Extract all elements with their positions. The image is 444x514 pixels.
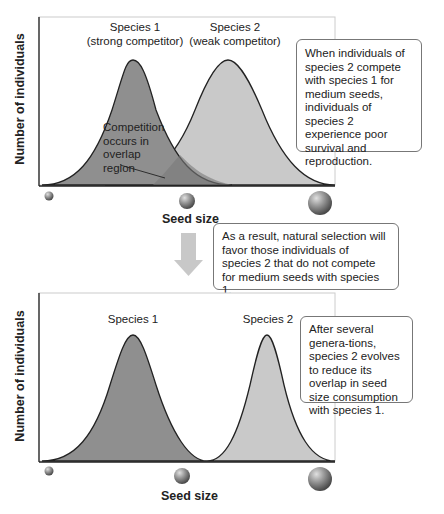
overlap-note-line: occurs in <box>103 135 164 149</box>
large-seed-icon <box>308 467 332 491</box>
y-axis-label: Number of individuals <box>13 29 27 169</box>
overlap-note-line: region <box>103 162 164 176</box>
callout-competition: When individuals of species 2 compete wi… <box>296 39 422 152</box>
medium-seed-icon <box>179 193 195 209</box>
small-seed-icon <box>45 192 54 201</box>
species2-subtitle: (weak competitor) <box>185 34 285 48</box>
large-seed-icon <box>308 191 332 215</box>
x-axis-label: Seed size <box>162 212 219 226</box>
bottom-panel: Number of individuals Seed size Species … <box>0 285 444 514</box>
species1-subtitle: (strong competitor) <box>80 34 190 48</box>
small-seed-icon <box>45 467 54 476</box>
callout-evolution: After several genera-tions, species 2 ev… <box>300 316 413 403</box>
overlap-note-line: overlap <box>103 148 164 162</box>
species1-label: Species 1 (strong competitor) <box>80 20 190 48</box>
species1-title: Species 1 <box>80 20 190 34</box>
medium-seed-icon <box>174 468 190 484</box>
y-axis-label: Number of individuals <box>13 306 27 446</box>
callout-selection: As a result, natural selection will favo… <box>213 223 399 290</box>
species1-label: Species 1 <box>103 312 163 326</box>
x-axis-label: Seed size <box>161 489 218 503</box>
species2-title: Species 2 <box>185 20 285 34</box>
species2-label: Species 2 (weak competitor) <box>185 20 285 48</box>
top-panel: Number of individuals Seed size Species … <box>0 0 444 240</box>
overlap-note: Competition occurs in overlap region <box>103 121 164 175</box>
overlap-note-line: Competition <box>103 121 164 135</box>
species2-label: Species 2 <box>238 312 298 326</box>
